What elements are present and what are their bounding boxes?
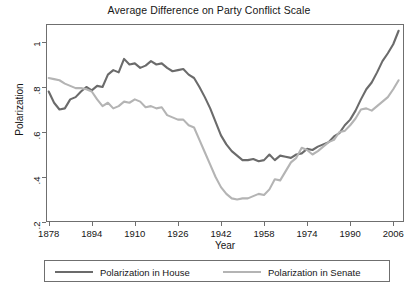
x-tick-label: 1878	[27, 228, 71, 239]
x-tick-label: 1926	[156, 228, 200, 239]
x-tick-mark	[178, 222, 179, 226]
x-tick-label: 1958	[242, 228, 286, 239]
legend-entry-house: Polarization in House	[55, 261, 190, 283]
x-tick-mark	[135, 222, 136, 226]
x-tick-mark	[49, 222, 50, 226]
x-tick-mark	[221, 222, 222, 226]
y-tick-mark	[42, 42, 46, 43]
x-tick-mark	[264, 222, 265, 226]
x-tick-mark	[307, 222, 308, 226]
x-tick-mark	[92, 222, 93, 226]
x-tick-mark	[393, 222, 394, 226]
x-tick-label: 1974	[285, 228, 329, 239]
y-axis-title: Polarization	[14, 65, 25, 155]
chart-title: Average Difference on Party Conflict Sca…	[0, 4, 418, 16]
y-tick-label: .4	[31, 177, 42, 205]
y-tick-mark	[42, 132, 46, 133]
y-tick-label: .8	[31, 87, 42, 115]
chart-figure: Average Difference on Party Conflict Sca…	[0, 0, 418, 289]
plot-area	[46, 24, 404, 222]
x-tick-label: 2006	[371, 228, 415, 239]
x-axis-title: Year	[46, 240, 404, 251]
legend-swatch-senate	[223, 271, 261, 273]
y-tick-label: .6	[31, 132, 42, 160]
x-tick-label: 1990	[328, 228, 372, 239]
y-tick-mark	[42, 222, 46, 223]
chart-legend: Polarization in House Polarization in Se…	[44, 260, 390, 282]
x-tick-mark	[350, 222, 351, 226]
legend-swatch-house	[55, 271, 93, 273]
y-tick-label: 1	[31, 42, 42, 70]
x-tick-label: 1894	[70, 228, 114, 239]
legend-entry-senate: Polarization in Senate	[223, 261, 360, 283]
y-tick-mark	[42, 177, 46, 178]
series-line-house	[49, 31, 399, 162]
legend-label-house: Polarization in House	[100, 267, 190, 278]
x-tick-label: 1910	[113, 228, 157, 239]
x-tick-label: 1942	[199, 228, 243, 239]
legend-label-senate: Polarization in Senate	[268, 267, 360, 278]
y-tick-mark	[42, 87, 46, 88]
